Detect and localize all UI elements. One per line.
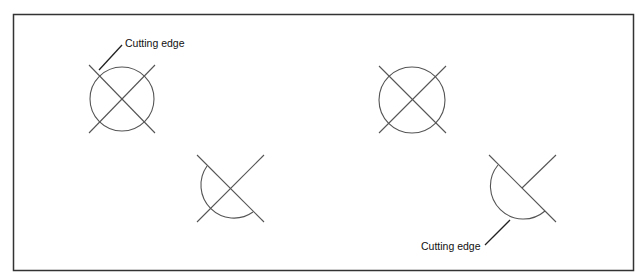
cutting-edge-label-top: Cutting edge <box>125 37 185 49</box>
half-circle-crossed-1 <box>197 155 264 222</box>
diagram-frame <box>14 15 634 271</box>
cutting-edge-leader-top <box>99 45 122 70</box>
full-circle-crossed-2 <box>379 66 446 133</box>
half-circle-crossed-2 <box>489 155 556 222</box>
cutting-edge-label-bottom: Cutting edge <box>421 240 481 252</box>
diagram-canvas: Cutting edge Cutting edge <box>0 0 644 279</box>
cutting-edge-leader-bottom <box>485 220 510 245</box>
full-circle-crossed-1 <box>89 65 155 133</box>
